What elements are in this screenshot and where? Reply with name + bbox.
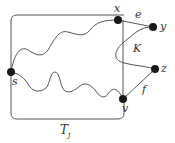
node-z	[151, 65, 159, 73]
label-tj: Tj	[60, 123, 71, 139]
label-v: v	[122, 102, 129, 115]
label-y: y	[159, 20, 167, 33]
label-s: s	[12, 75, 18, 88]
label-x: x	[114, 2, 121, 15]
label-k: K	[132, 42, 142, 55]
path-s-to-x-upper	[11, 20, 118, 72]
label-z: z	[160, 62, 167, 75]
label-e: e	[135, 8, 142, 21]
region-tj-boundary	[11, 15, 124, 119]
label-f: f	[141, 83, 148, 96]
edge-f	[123, 69, 155, 99]
node-y	[149, 23, 157, 31]
node-x	[114, 16, 122, 24]
path-s-to-v-lower	[11, 72, 123, 99]
diagram-canvas: s x y z v e f K Tj	[0, 0, 175, 143]
